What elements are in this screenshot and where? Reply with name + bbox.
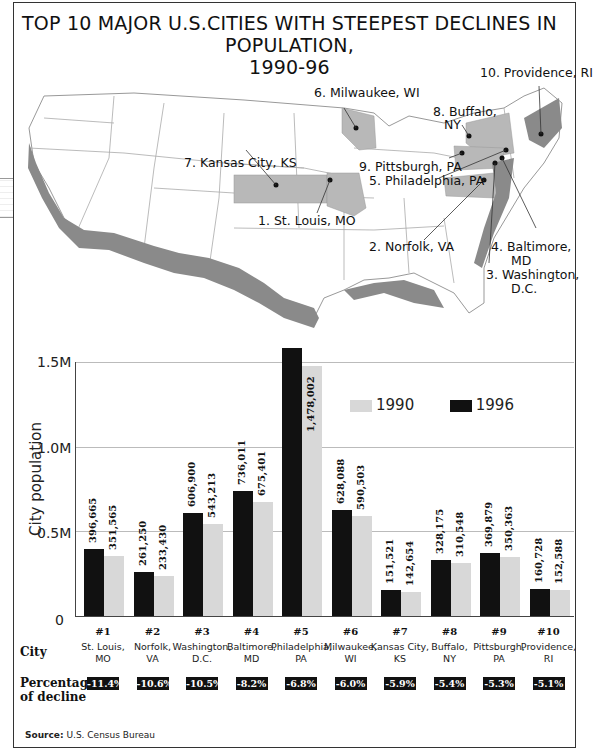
value-label-1990-2: 233,430 [157, 525, 168, 570]
decline-badge-1: -11.4% [87, 677, 119, 690]
row-label-percentage-line2: of decline [20, 690, 96, 704]
city-rank-1: #1 [75, 626, 131, 637]
value-label-1996-4: 736,011 [236, 440, 247, 485]
bar-1990-4 [253, 502, 273, 616]
map-label-st-louis: 1. St. Louis, MO [258, 214, 356, 228]
value-label-1996-8: 328,175 [434, 509, 445, 554]
map-label-buffalo: 8. Buffalo, [433, 105, 497, 119]
decline-badge-8: -5.4% [434, 677, 466, 690]
bar-1990-8 [451, 563, 471, 616]
bar-1996-6 [332, 510, 352, 616]
legend-label-1996: 1996 [476, 396, 514, 414]
city-rank-7: #7 [372, 626, 428, 637]
legend-swatch-1996 [450, 400, 472, 412]
decline-badge-3: -10.5% [186, 677, 218, 690]
decline-badge-5: -6.8% [285, 677, 317, 690]
bar-1990-9 [500, 557, 520, 616]
map-label-washington-dc: D.C. [511, 282, 537, 296]
row-label-percentage: Percentage of decline [20, 676, 96, 704]
bar-1996-1 [84, 549, 104, 616]
city-rank-6: #6 [323, 626, 379, 637]
city-name-line2: RI [519, 653, 579, 665]
decline-badge-4: -8.2% [236, 677, 268, 690]
value-label-1990-1: 351,565 [107, 505, 118, 550]
value-label-1990-5: 1,478,002 [305, 376, 316, 432]
map-label-buffalo-state: NY [444, 118, 461, 132]
map-label-providence: 10. Providence, RI [480, 66, 593, 80]
bar-1996-3 [183, 513, 203, 616]
city-rank-9: #9 [471, 626, 527, 637]
value-label-1990-9: 350,363 [503, 505, 514, 550]
us-map: 10. Providence, RI 6. Milwaukee, WI 8. B… [14, 68, 576, 330]
bar-1990-10 [550, 590, 570, 616]
city-name-10: Providence,RI [519, 641, 579, 665]
y-tick-1-5m: 1.5M [37, 354, 71, 370]
source-label: Source: [25, 730, 64, 740]
map-label-norfolk: 2. Norfolk, VA [369, 240, 454, 254]
value-label-1996-9: 369,879 [483, 502, 494, 547]
city-rank-10: #10 [521, 626, 577, 637]
source-text: U.S. Census Bureau [66, 730, 155, 740]
city-rank-8: #8 [422, 626, 478, 637]
decline-badge-10: -5.1% [533, 677, 565, 690]
gridline-0-5m [76, 531, 574, 532]
gridline-1-5m [76, 362, 574, 363]
value-label-1990-4: 675,401 [256, 450, 267, 495]
bar-1996-10 [530, 589, 550, 616]
y-tick-0: 0 [55, 612, 64, 628]
gridline-1-0m [76, 447, 574, 448]
decline-badge-7: -5.9% [384, 677, 416, 690]
bar-1996-8 [431, 560, 451, 616]
map-label-milwaukee: 6. Milwaukee, WI [314, 86, 420, 100]
source-note: Source: U.S. Census Bureau [25, 730, 155, 740]
value-label-1990-6: 590,503 [355, 465, 366, 510]
value-label-1996-2: 261,250 [137, 521, 148, 566]
city-rank-5: #5 [273, 626, 329, 637]
decline-badge-9: -5.3% [483, 677, 515, 690]
city-rank-2: #2 [125, 626, 181, 637]
state-kansas [234, 175, 327, 203]
value-label-1996-1: 396,665 [87, 498, 98, 543]
map-label-washington: 3. Washington, [486, 268, 579, 282]
map-label-kansas-city: 7. Kansas City, KS [184, 156, 297, 170]
bar-1996-7 [381, 590, 401, 616]
value-label-1996-6: 628,088 [335, 458, 346, 503]
map-label-pittsburgh: 9. Pittsburgh, PA [359, 160, 462, 174]
value-label-1996-5: 1,585,577 [285, 376, 296, 432]
legend: 1990 1996 [350, 396, 514, 414]
decline-badge-6: -6.0% [335, 677, 367, 690]
legend-label-1990: 1990 [376, 396, 414, 414]
city-name-line1: Providence, [519, 641, 579, 653]
value-label-1996-10: 160,728 [533, 538, 544, 583]
bar-1996-9 [480, 553, 500, 616]
decline-badge-2: -10.6% [137, 677, 169, 690]
coast-gulf [344, 280, 444, 308]
row-label-percentage-line1: Percentage [20, 676, 96, 690]
bar-1996-4 [233, 491, 253, 616]
city-rank-4: #4 [224, 626, 280, 637]
bar-1990-3 [203, 524, 223, 616]
bar-1990-7 [401, 592, 421, 616]
value-label-1996-3: 606,900 [186, 462, 197, 507]
map-label-baltimore: 4. Baltimore, [491, 240, 571, 254]
y-axis-title: City population [27, 419, 45, 539]
map-label-philadelphia: 5. Philadelphia, PA [369, 174, 484, 188]
bar-1996-2 [134, 572, 154, 616]
value-label-1996-7: 151,521 [384, 539, 395, 584]
value-label-1990-10: 152,588 [553, 539, 564, 584]
value-label-1990-3: 543,213 [206, 473, 217, 518]
value-label-1990-7: 142,654 [404, 541, 415, 586]
row-label-city: City [20, 645, 47, 659]
map-label-baltimore-state: MD [511, 254, 531, 268]
city-rank-3: #3 [174, 626, 230, 637]
legend-swatch-1990 [350, 400, 372, 412]
title-line-1: TOP 10 MAJOR U.S.CITIES WITH STEEPEST DE… [0, 12, 579, 56]
bar-1990-1 [104, 556, 124, 616]
bar-1990-6 [352, 516, 372, 616]
value-label-1990-8: 310,548 [454, 512, 465, 557]
bar-1990-2 [154, 576, 174, 616]
